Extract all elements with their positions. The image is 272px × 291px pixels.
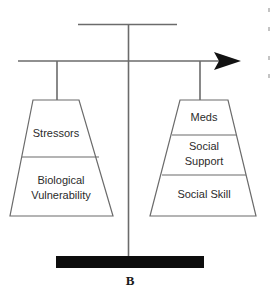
balance-scale-figure: Stressors Biological Vulnerability Meds … — [0, 0, 272, 291]
right-section-2-line-0: Social Skill — [177, 188, 230, 200]
left-section-1-line-1: Vulnerability — [31, 189, 91, 201]
scan-speck-1 — [268, 8, 270, 12]
scale-diagram: Stressors Biological Vulnerability Meds … — [0, 0, 272, 291]
scan-speck-4 — [268, 74, 270, 78]
right-section-1-line-1: Support — [185, 155, 224, 167]
left-section-1-line-0: Biological — [37, 174, 84, 186]
figure-label: B — [126, 273, 135, 288]
scan-speck-3 — [268, 56, 270, 60]
left-section-0-line-0: Stressors — [33, 127, 80, 139]
right-section-0-line-0: Meds — [191, 111, 218, 123]
scan-speck-2 — [268, 27, 270, 31]
base-block — [56, 256, 204, 268]
right-section-1-line-0: Social — [189, 140, 219, 152]
